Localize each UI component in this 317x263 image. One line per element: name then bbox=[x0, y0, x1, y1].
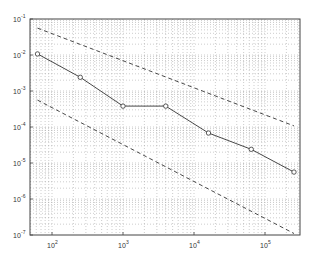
y-tick-exponent: -6 bbox=[21, 193, 26, 199]
x-tick-label: 10 bbox=[189, 242, 197, 249]
data-point-marker bbox=[164, 104, 168, 108]
data-point-marker bbox=[292, 170, 296, 174]
x-tick-label: 10 bbox=[47, 242, 55, 249]
y-tick-exponent: -5 bbox=[21, 157, 26, 163]
y-tick-exponent: -1 bbox=[21, 13, 26, 19]
x-tick-label: 10 bbox=[260, 242, 268, 249]
data-point-marker bbox=[78, 75, 82, 79]
y-tick-label: 10 bbox=[13, 124, 21, 131]
grid-lines bbox=[30, 19, 300, 235]
y-tick-exponent: -4 bbox=[21, 121, 26, 127]
y-tick-exponent: -2 bbox=[21, 49, 26, 55]
y-tick-label: 10 bbox=[13, 196, 21, 203]
y-tick-label: 10 bbox=[13, 88, 21, 95]
y-tick-label: 10 bbox=[13, 232, 21, 239]
data-point-marker bbox=[249, 147, 253, 151]
x-tick-label: 10 bbox=[118, 242, 126, 249]
y-tick-exponent: -3 bbox=[21, 85, 26, 91]
y-tick-exponent: -7 bbox=[21, 229, 26, 235]
x-tick-exponent: 4 bbox=[197, 239, 200, 245]
x-tick-exponent: 2 bbox=[55, 239, 58, 245]
x-tick-exponent: 3 bbox=[126, 239, 129, 245]
x-tick-exponent: 5 bbox=[268, 239, 271, 245]
y-tick-label: 10 bbox=[13, 52, 21, 59]
y-tick-label: 10 bbox=[13, 160, 21, 167]
data-point-marker bbox=[121, 104, 125, 108]
y-tick-label: 10 bbox=[13, 16, 21, 23]
data-point-marker bbox=[206, 131, 210, 135]
data-point-marker bbox=[35, 52, 39, 56]
loglog-chart: 102103104105 10-110-210-310-410-510-610-… bbox=[0, 0, 317, 263]
